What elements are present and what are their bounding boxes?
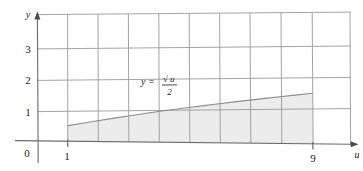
- grid-line-y3: [38, 46, 351, 49]
- y-tick-label-3: 3: [25, 43, 31, 55]
- grid-line-u5: [189, 14, 190, 143]
- x-axis-arrow: [351, 141, 359, 147]
- y-axis-arrow: [34, 12, 40, 20]
- x-tick-label-9: 9: [310, 152, 316, 164]
- y-axis-label: y: [25, 9, 31, 20]
- figure-container: y u 3 2 1 0 1 9 y = √ u 2: [0, 0, 363, 171]
- grid-line-right-border: [350, 12, 351, 144]
- grid-line-top: [38, 12, 351, 15]
- y-tick-label-1: 1: [25, 106, 31, 118]
- origin-label: 0: [24, 147, 30, 159]
- graph-svg: y u 3 2 1 0 1 9 y = √ u 2: [0, 0, 363, 171]
- curve-equation-label: y = √ u 2: [140, 74, 177, 97]
- grid-line-y2: [38, 77, 351, 80]
- grid-line-u4: [159, 14, 160, 142]
- x-axis-label: u: [355, 149, 360, 160]
- equation-lhs: y =: [140, 76, 155, 87]
- y-tick-label-2: 2: [25, 74, 31, 86]
- equation-radicand: u: [170, 74, 175, 84]
- x-tick-label-1: 1: [64, 150, 70, 162]
- radical-sign: √: [163, 74, 168, 84]
- equation-denominator: 2: [167, 87, 172, 97]
